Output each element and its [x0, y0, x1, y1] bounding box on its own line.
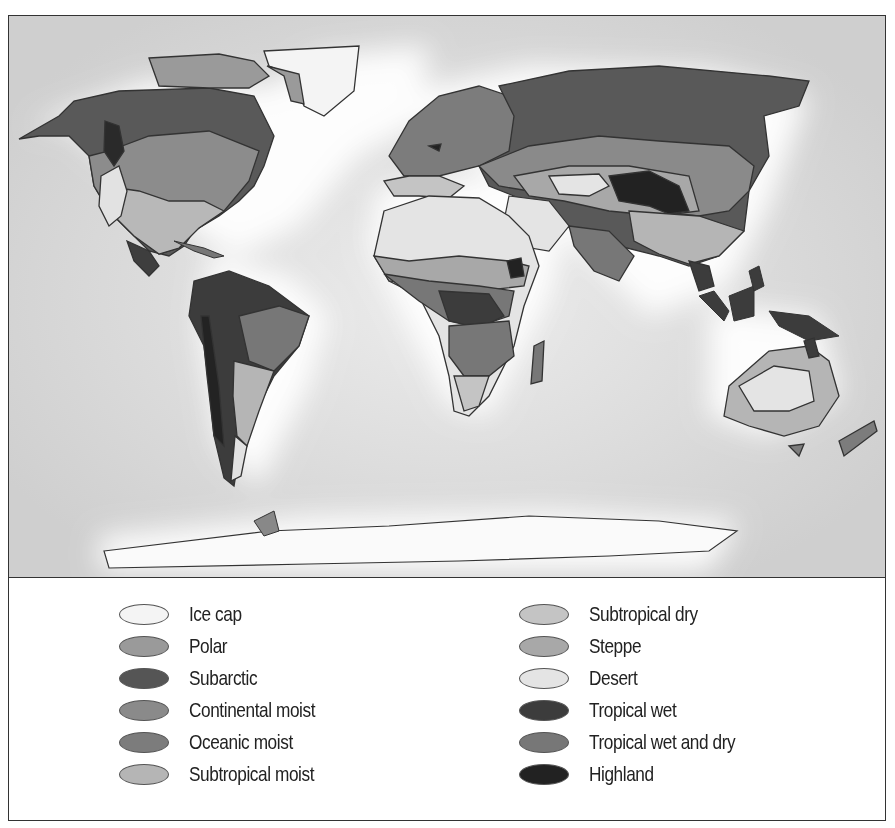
legend-label: Tropical wet and dry — [589, 730, 735, 754]
swatch-tropical-wet-and-dry-icon — [519, 732, 569, 753]
legend-item-tropical-wet: Tropical wet — [519, 694, 767, 726]
legend-item-steppe: Steppe — [519, 630, 767, 662]
swatch-subtropical-moist-icon — [119, 764, 169, 785]
legend-column-right: Subtropical dry Steppe Desert Tropical w… — [519, 598, 767, 790]
world-map-graphic — [9, 16, 885, 577]
legend-item-desert: Desert — [519, 662, 767, 694]
legend-label: Continental moist — [189, 698, 315, 722]
legend-item-highland: Highland — [519, 758, 767, 790]
swatch-polar-icon — [119, 636, 169, 657]
legend-item-ice-cap: Ice cap — [119, 598, 343, 630]
legend-label: Desert — [589, 666, 637, 690]
legend-item-tropical-wet-and-dry: Tropical wet and dry — [519, 726, 767, 758]
swatch-highland-icon — [519, 764, 569, 785]
swatch-steppe-icon — [519, 636, 569, 657]
climate-map-figure: Ice cap Polar Subarctic Continental mois… — [8, 15, 886, 821]
swatch-tropical-wet-icon — [519, 700, 569, 721]
legend-label: Polar — [189, 634, 227, 658]
legend-item-continental-moist: Continental moist — [119, 694, 343, 726]
legend-item-subtropical-moist: Subtropical moist — [119, 758, 343, 790]
legend-label: Ice cap — [189, 602, 242, 626]
legend-item-polar: Polar — [119, 630, 343, 662]
legend: Ice cap Polar Subarctic Continental mois… — [9, 578, 885, 820]
swatch-subtropical-dry-icon — [519, 604, 569, 625]
legend-label: Highland — [589, 762, 654, 786]
legend-label: Tropical wet — [589, 698, 676, 722]
legend-column-left: Ice cap Polar Subarctic Continental mois… — [119, 598, 343, 790]
swatch-oceanic-moist-icon — [119, 732, 169, 753]
legend-item-subarctic: Subarctic — [119, 662, 343, 694]
legend-label: Subtropical dry — [589, 602, 698, 626]
swatch-desert-icon — [519, 668, 569, 689]
legend-label: Oceanic moist — [189, 730, 293, 754]
legend-label: Subarctic — [189, 666, 257, 690]
legend-item-oceanic-moist: Oceanic moist — [119, 726, 343, 758]
legend-item-subtropical-dry: Subtropical dry — [519, 598, 767, 630]
world-map — [9, 16, 885, 578]
swatch-subarctic-icon — [119, 668, 169, 689]
legend-label: Subtropical moist — [189, 762, 314, 786]
swatch-ice-cap-icon — [119, 604, 169, 625]
swatch-continental-moist-icon — [119, 700, 169, 721]
legend-label: Steppe — [589, 634, 641, 658]
